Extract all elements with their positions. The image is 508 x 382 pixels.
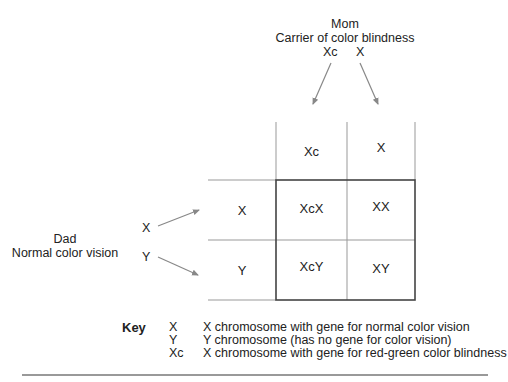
row-header-x: X [208,180,276,240]
row-header-y: Y [208,240,276,300]
dad-allele-1: X [142,221,150,235]
arrow-dad-y [158,257,198,275]
dad-title: Dad [5,232,125,246]
mom-subtitle: Carrier of color blindness [260,31,430,45]
mom-title: Mom [260,17,430,31]
mom-label: Mom Carrier of color blindness [260,17,430,45]
key-label: Key [122,320,146,335]
dad-subtitle: Normal color vision [5,246,125,260]
arrow-mom-xc [313,63,331,104]
dad-label: Dad Normal color vision [5,232,125,260]
offspring-xcx: XcX [276,178,347,238]
col-header-xc: Xc [276,122,347,180]
offspring-xy: XY [347,238,415,298]
col-header-x: X [347,118,415,176]
mom-allele-2: X [356,45,364,59]
mom-allele-1: Xc [323,45,338,59]
key-descriptions: X chromosome with gene for normal color … [203,321,507,360]
key-description: X chromosome with gene for red-green col… [203,347,507,360]
arrow-mom-x [360,63,378,104]
dad-allele-2: Y [142,250,150,264]
key-symbols: X Y Xc [169,321,184,360]
offspring-xx: XX [347,176,415,236]
key-symbol: Xc [169,347,184,360]
offspring-xcy: XcY [276,236,347,296]
arrow-dad-x [158,210,199,226]
